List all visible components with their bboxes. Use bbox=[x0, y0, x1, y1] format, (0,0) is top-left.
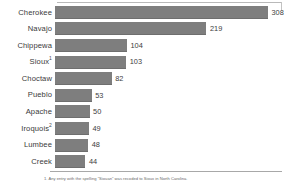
bar-value-label: 219 bbox=[206, 25, 222, 32]
bar-category-label: Lumbee bbox=[0, 141, 55, 149]
bar-row: Iroquois249 bbox=[0, 120, 285, 137]
bar-track: 53 bbox=[55, 89, 285, 102]
bar-value-label: 53 bbox=[92, 92, 104, 99]
bar-row: Creek44 bbox=[0, 153, 285, 170]
bottom-axis-line bbox=[50, 171, 282, 172]
bar-track: 308 bbox=[55, 6, 285, 19]
bar-row: Chippewa104 bbox=[0, 37, 285, 54]
bar-category-label: Chippewa bbox=[0, 42, 55, 50]
bar-value-label: 104 bbox=[127, 42, 143, 49]
bar-category-label: Apache bbox=[0, 108, 55, 116]
bar bbox=[55, 39, 127, 52]
bar-value-label: 48 bbox=[88, 141, 100, 148]
bar-category-label: Iroquois2 bbox=[0, 125, 55, 133]
footnote-marker: 1 bbox=[49, 56, 52, 62]
bar-category-label: Sioux1 bbox=[0, 58, 55, 66]
bar-track: 82 bbox=[55, 72, 285, 85]
bar-row: Pueblo53 bbox=[0, 87, 285, 104]
bar bbox=[55, 105, 90, 118]
bar-row: Choctaw82 bbox=[0, 70, 285, 87]
top-border-rule bbox=[57, 2, 282, 3]
bar bbox=[55, 6, 268, 19]
footnote: 1. Any entry with the spelling "Siouan" … bbox=[44, 176, 282, 182]
bar-row: Apache50 bbox=[0, 104, 285, 121]
bar-category-label: Creek bbox=[0, 158, 55, 166]
bar bbox=[55, 22, 206, 35]
bar-value-label: 308 bbox=[268, 9, 284, 16]
bar-chart: Cherokee308Navajo219Chippewa104Sioux1103… bbox=[0, 0, 285, 187]
bar bbox=[55, 89, 92, 102]
bar-track: 48 bbox=[55, 139, 285, 152]
bar-category-label: Pueblo bbox=[0, 91, 55, 99]
bar-row: Lumbee48 bbox=[0, 137, 285, 154]
bar-row: Sioux1103 bbox=[0, 54, 285, 71]
bar-track: 219 bbox=[55, 22, 285, 35]
bar-track: 50 bbox=[55, 105, 285, 118]
plot-area: Cherokee308Navajo219Chippewa104Sioux1103… bbox=[0, 4, 285, 170]
bar bbox=[55, 139, 88, 152]
bar-value-label: 49 bbox=[89, 125, 101, 132]
bar bbox=[55, 122, 89, 135]
footnote-list: 1. Any entry with the spelling "Siouan" … bbox=[44, 176, 282, 182]
bar-value-label: 44 bbox=[85, 158, 97, 165]
bar-category-label: Cherokee bbox=[0, 9, 55, 17]
bar-category-label: Navajo bbox=[0, 25, 55, 33]
bar-row: Cherokee308 bbox=[0, 4, 285, 21]
bar-value-label: 50 bbox=[90, 108, 102, 115]
bar bbox=[55, 56, 126, 69]
bar-track: 104 bbox=[55, 39, 285, 52]
bar bbox=[55, 155, 85, 168]
bar-value-label: 82 bbox=[112, 75, 124, 82]
bar-category-label: Choctaw bbox=[0, 75, 55, 83]
bar-track: 103 bbox=[55, 56, 285, 69]
bar-value-label: 103 bbox=[126, 58, 142, 65]
bar-track: 49 bbox=[55, 122, 285, 135]
bar-track: 44 bbox=[55, 155, 285, 168]
bar-row: Navajo219 bbox=[0, 21, 285, 38]
bar bbox=[55, 72, 112, 85]
footnote-marker: 2 bbox=[49, 122, 52, 128]
